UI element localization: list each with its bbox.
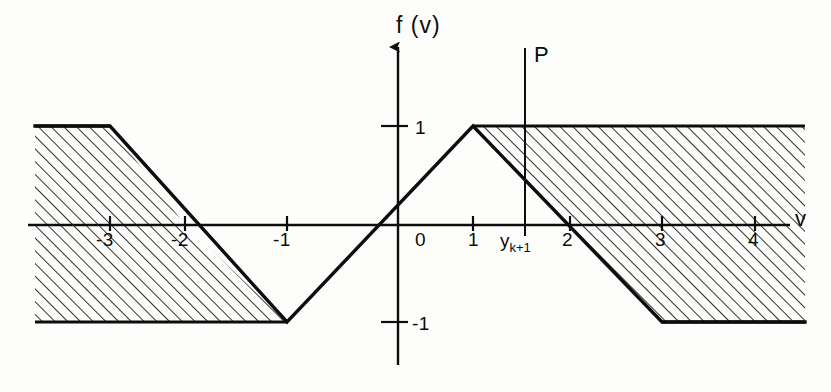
x-tick-label-pos3: 3 [655, 230, 666, 249]
f-axis-label: f (v) [396, 14, 441, 37]
y-tick-label-pos1: 1 [415, 118, 426, 137]
hatch-left-lower [35, 225, 287, 322]
v-axis-label: v [795, 208, 806, 230]
x-tick-label-neg1: -1 [273, 230, 291, 249]
x-tick-label-pos2: 2 [562, 230, 573, 249]
y-tick-label-neg1: -1 [412, 314, 430, 333]
x-tick-label-pos1: 1 [468, 230, 479, 249]
x-tick-label-pos4: 4 [748, 230, 759, 249]
yk-label-base: y [500, 230, 510, 251]
x-tick-label-neg2: -2 [171, 230, 189, 249]
yk-plus-1-label: yk+1 [500, 231, 531, 254]
hatch-right-lower [570, 225, 805, 322]
figure-canvas: f (v) v P 0 -3 -2 -1 1 2 3 4 1 -1 yk+1 [0, 0, 831, 392]
p-line-label: P [534, 44, 549, 66]
origin-label: 0 [415, 230, 426, 249]
yk-label-subscript: k+1 [510, 240, 531, 255]
hatch-left-upper [35, 126, 185, 225]
x-tick-label-neg3: -3 [96, 230, 114, 249]
